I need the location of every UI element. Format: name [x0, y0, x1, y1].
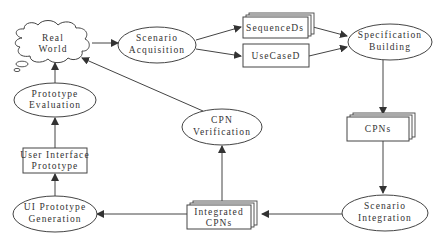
user-interface-prototype-node: User Interface Prototype — [20, 148, 89, 173]
edge-acquisition-to-sequenceds — [196, 27, 241, 40]
specification-building-node: Specification Building — [348, 24, 432, 60]
process-diagram: Real World Scenario Acquisition Sequence… — [0, 0, 435, 242]
ui-prototype-generation-node: UI Prototype Generation — [13, 196, 97, 232]
cpns-label: CPNs — [365, 124, 392, 134]
edge-verification-to-realworld — [82, 58, 203, 111]
integrated-cpns-node: Integrated CPNs — [187, 201, 257, 229]
prototype-evaluation-node: Prototype Evaluation — [14, 83, 96, 117]
integrated-cpns-label-1: Integrated — [194, 207, 244, 217]
cpns-node: CPNs — [347, 113, 415, 141]
cpn-verification-node: CPN Verification — [182, 109, 262, 145]
ui-prototype-generation-label-1: UI Prototype — [24, 202, 87, 212]
sequenceds-node: SequenceDs — [243, 13, 314, 38]
usecased-node: UseCaseD — [243, 44, 309, 67]
sequenceds-label: SequenceDs — [246, 23, 304, 33]
prototype-evaluation-label-2: Evaluation — [29, 100, 81, 110]
edge-usecased-to-specification — [309, 47, 347, 56]
cpn-verification-label-2: Verification — [193, 127, 251, 137]
scenario-integration-label-2: Integration — [358, 213, 412, 223]
scenario-acquisition-node: Scenario Acquisition — [118, 27, 196, 63]
specification-building-label-1: Specification — [358, 30, 422, 40]
real-world-label-2: World — [38, 44, 67, 54]
scenario-integration-node: Scenario Integration — [342, 195, 428, 231]
scenario-acquisition-label-2: Acquisition — [129, 45, 185, 55]
real-world-cloud: Real World — [14, 21, 89, 72]
real-world-label-1: Real — [42, 33, 64, 43]
edge-sequenceds-to-specification — [313, 27, 347, 36]
usecased-label: UseCaseD — [252, 51, 301, 61]
specification-building-label-2: Building — [369, 42, 411, 52]
scenario-integration-label-1: Scenario — [364, 201, 406, 211]
edge-acquisition-to-usecased — [196, 49, 241, 56]
user-interface-prototype-label-2: Prototype — [32, 161, 79, 171]
prototype-evaluation-label-1: Prototype — [32, 89, 79, 99]
ui-prototype-generation-label-2: Generation — [28, 214, 81, 224]
scenario-acquisition-label-1: Scenario — [136, 33, 178, 43]
integrated-cpns-label-2: CPNs — [206, 218, 233, 228]
user-interface-prototype-label-1: User Interface — [20, 150, 89, 160]
cpn-verification-label-1: CPN — [211, 115, 233, 125]
